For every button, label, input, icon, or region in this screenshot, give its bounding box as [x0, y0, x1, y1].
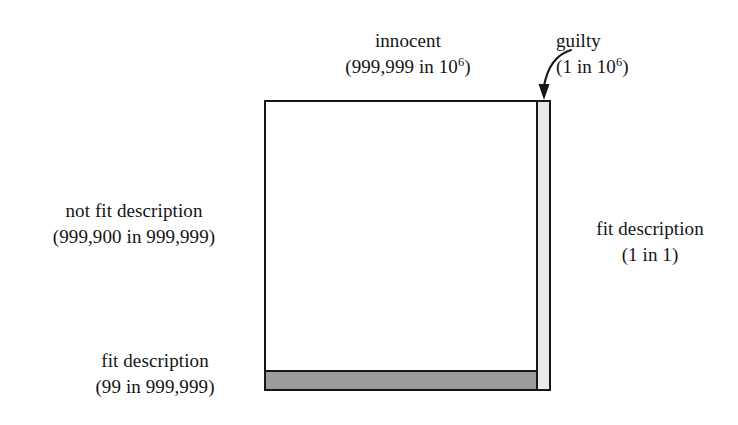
- diagram-canvas: innocent (999,999 in 106) guilty (1 in 1…: [0, 0, 738, 425]
- guilty-region-column: [536, 102, 549, 389]
- label-fit-description-innocent-detail: (99 in 999,999): [48, 374, 262, 400]
- guilty-pointer-arrow-icon: [508, 44, 578, 106]
- label-not-fit-description: not fit description (999,900 in 999,999): [8, 198, 260, 250]
- label-fit-description-innocent-title: fit description: [48, 348, 262, 374]
- innocent-region: [266, 102, 536, 389]
- population-rectangle: [264, 100, 551, 391]
- label-fit-description-guilty-title: fit description: [566, 216, 734, 242]
- label-guilty: guilty (1 in 106): [556, 28, 724, 80]
- label-innocent-detail-prefix: (999,999 in 10: [345, 56, 458, 77]
- guilty-fit-description-fill: [538, 102, 549, 389]
- innocent-fit-description-band: [266, 370, 536, 389]
- label-guilty-detail-suffix: ): [622, 56, 628, 77]
- label-not-fit-description-detail: (999,900 in 999,999): [8, 224, 260, 250]
- label-guilty-title: guilty: [556, 28, 724, 54]
- label-fit-description-guilty-detail: (1 in 1): [566, 242, 734, 268]
- label-guilty-detail: (1 in 106): [556, 54, 724, 80]
- label-fit-description-innocent: fit description (99 in 999,999): [48, 348, 262, 400]
- label-fit-description-guilty: fit description (1 in 1): [566, 216, 734, 268]
- label-not-fit-description-title: not fit description: [8, 198, 260, 224]
- label-innocent-detail-suffix: ): [464, 56, 470, 77]
